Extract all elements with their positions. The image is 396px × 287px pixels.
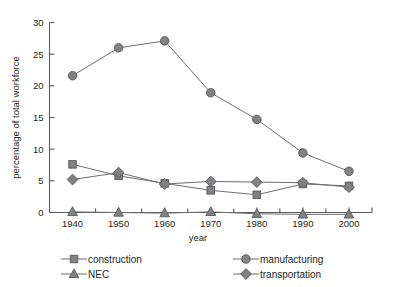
- chart-background: [0, 0, 396, 287]
- data-point: [207, 187, 215, 195]
- legend-label: construction: [88, 254, 142, 265]
- x-tick-label: 1980: [246, 218, 267, 229]
- legend-item-construction[interactable]: construction: [61, 254, 142, 265]
- x-tick-label: 1960: [154, 218, 175, 229]
- data-point: [345, 167, 354, 176]
- y-tick-label: 10: [33, 144, 44, 155]
- x-axis-title: year: [189, 232, 207, 243]
- y-tick-label: 5: [38, 175, 43, 186]
- line-chart: 051015202530 194019501960197019801990200…: [0, 0, 396, 287]
- data-point: [253, 115, 262, 124]
- legend-label: NEC: [88, 269, 109, 280]
- y-tick-label: 20: [33, 80, 44, 91]
- legend-item-transportation[interactable]: transportation: [233, 269, 321, 280]
- data-point: [114, 44, 123, 53]
- data-point: [160, 37, 169, 46]
- data-point: [69, 161, 77, 169]
- legend-item-manufacturing[interactable]: manufacturing: [233, 254, 323, 265]
- chart-container: 051015202530 194019501960197019801990200…: [0, 0, 396, 287]
- x-tick-label: 2000: [338, 218, 359, 229]
- data-point: [299, 149, 308, 158]
- y-tick-label: 30: [33, 17, 44, 28]
- data-point: [253, 191, 261, 199]
- legend-label: transportation: [260, 269, 321, 280]
- data-point: [68, 71, 77, 80]
- legend-label: manufacturing: [260, 254, 323, 265]
- x-tick-label: 1940: [62, 218, 83, 229]
- x-tick-label: 1990: [292, 218, 313, 229]
- y-tick-label: 0: [38, 207, 43, 218]
- data-point: [206, 89, 215, 98]
- y-tick-label: 25: [33, 49, 44, 60]
- legend-marker-circle: [242, 255, 251, 264]
- y-tick-label: 15: [33, 112, 44, 123]
- legend-marker-square: [70, 255, 78, 263]
- x-tick-label: 1950: [108, 218, 129, 229]
- y-axis-title: percentage of total workforce: [10, 56, 21, 179]
- x-tick-label: 1970: [200, 218, 221, 229]
